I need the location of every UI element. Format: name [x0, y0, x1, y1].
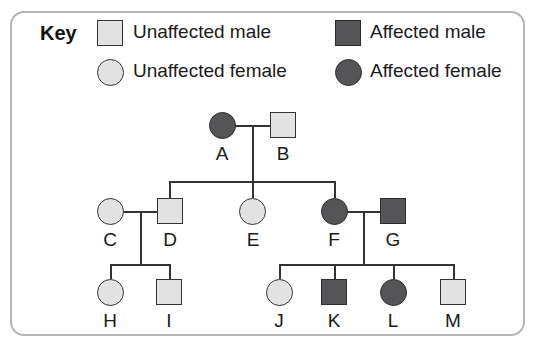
drop-line-f — [334, 181, 336, 198]
label-j: J — [264, 310, 294, 332]
individual-b-unaffected-male-icon — [270, 112, 296, 138]
individual-g-affected-male-icon — [380, 198, 406, 224]
individual-h-unaffected-female-icon — [97, 279, 124, 306]
descent-line-f-g — [363, 211, 365, 265]
label-b: B — [268, 143, 298, 165]
drop-line-i — [169, 264, 171, 279]
sibship-line-f-g-children — [279, 264, 454, 266]
key-label-unaffected-female: Unaffected female — [133, 60, 287, 82]
label-i: I — [154, 310, 184, 332]
descent-line-c-d — [140, 211, 142, 265]
label-k: K — [319, 310, 349, 332]
individual-i-unaffected-male-icon — [156, 279, 182, 305]
label-m: M — [438, 310, 468, 332]
drop-line-d — [169, 181, 171, 198]
individual-k-affected-male-icon — [321, 279, 347, 305]
key-affected-female-circle-icon — [335, 59, 362, 86]
individual-m-unaffected-male-icon — [440, 279, 466, 305]
key-unaffected-female-circle-icon — [97, 59, 124, 86]
label-a: A — [207, 143, 237, 165]
drop-line-e — [252, 181, 254, 198]
key-title: Key — [40, 22, 77, 45]
individual-c-unaffected-female-icon — [97, 198, 124, 225]
label-e: E — [238, 229, 268, 251]
drop-line-m — [453, 264, 455, 279]
label-l: L — [378, 310, 408, 332]
drop-line-j — [279, 264, 281, 279]
individual-j-unaffected-female-icon — [266, 279, 293, 306]
key-label-affected-female: Affected female — [370, 60, 502, 82]
drop-line-l — [393, 264, 395, 279]
key-unaffected-male-square-icon — [97, 20, 123, 46]
individual-d-unaffected-male-icon — [157, 198, 183, 224]
descent-line-a-b — [252, 125, 254, 182]
individual-f-affected-female-icon — [321, 198, 348, 225]
label-d: D — [155, 229, 185, 251]
key-affected-male-square-icon — [335, 20, 361, 46]
individual-l-affected-female-icon — [380, 279, 407, 306]
label-h: H — [95, 310, 125, 332]
individual-a-affected-female-icon — [209, 112, 236, 139]
drop-line-k — [334, 264, 336, 279]
key-label-affected-male: Affected male — [370, 21, 486, 43]
individual-e-unaffected-female-icon — [239, 198, 266, 225]
label-c: C — [95, 229, 125, 251]
drop-line-h — [110, 264, 112, 279]
label-g: G — [378, 229, 408, 251]
sibship-line-c-d-children — [110, 264, 170, 266]
label-f: F — [319, 229, 349, 251]
key-label-unaffected-male: Unaffected male — [133, 21, 271, 43]
